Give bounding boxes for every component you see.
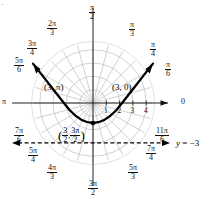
angle-label-pi-over-2: π 2 [89,4,95,21]
point-label-3-pi: (3, π) [44,83,64,92]
angle-label-7pi-over-4: 7π 4 [146,145,156,162]
polar-plot-svg [0,0,209,202]
angle-label-pi-over-4: π 4 [150,41,156,58]
point-vertex [91,121,96,126]
angle-label-0: 0 [181,98,185,106]
radial-tick-label-3: 3 [131,106,135,115]
radial-tick-label-4: 4 [144,106,148,115]
spoke-345 [93,103,150,118]
point-label-3-2-3pi-2: (32,3π2) [58,127,85,144]
point-label-theta-fraction: 3π2 [70,127,80,144]
polar-graph-figure: · [0,0,209,202]
angle-label-7pi-over-6: 7π 6 [14,127,24,144]
angle-label-5pi-over-6: 5π 6 [14,57,24,74]
angle-label-5pi-over-3: 5π 3 [128,164,138,181]
radial-tick-label-1: 1 [104,106,108,115]
plotted-points [91,121,96,126]
angle-label-3pi-over-2: 3π 2 [88,180,98,197]
directrix-variable: y [176,138,180,148]
angle-label-pi-over-6: π 6 [165,61,171,78]
spoke-75 [93,46,108,103]
angle-label-3pi-over-4: 3π 4 [27,40,37,57]
directrix-equation-label: y = −3 [176,138,199,148]
angle-label-4pi-over-3: 4π 3 [47,164,57,181]
angle-label-11pi-over-6: 11π 6 [155,127,169,144]
spoke-195 [36,103,93,118]
radial-tick-label-2: 2 [118,106,122,115]
point-label-3-0: (3, 0) [112,83,132,92]
point-label-close-paren: ) [80,128,84,143]
directrix-equation-value: = −3 [182,138,199,148]
angle-label-2pi-over-3: 2π 3 [47,20,57,37]
spoke-105 [78,46,93,103]
angle-label-5pi-over-4: 5π 4 [28,147,38,164]
angle-label-pi-over-3: π 3 [129,21,135,38]
polar-axis-arrow-right [161,100,169,106]
angle-label-pi: π [2,98,6,106]
